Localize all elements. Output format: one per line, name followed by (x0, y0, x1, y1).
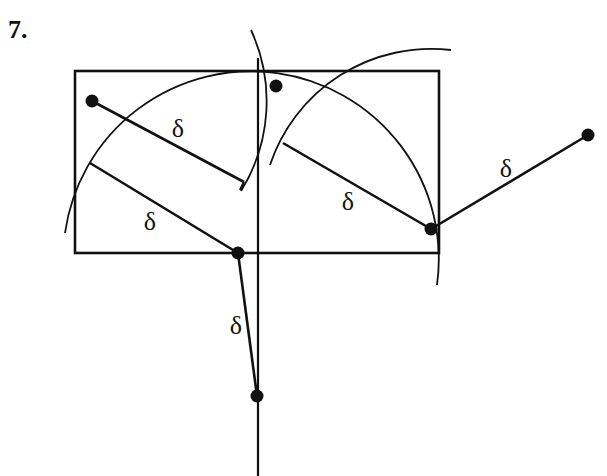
point-p1 (86, 95, 99, 108)
delta-label: δ (342, 187, 354, 216)
point-p6 (251, 390, 264, 403)
point-p4 (425, 223, 438, 236)
point-p5 (582, 129, 595, 142)
delta-label: δ (230, 311, 242, 340)
delta-label: δ (144, 207, 156, 236)
arc-left-point (241, 30, 267, 191)
segment-s1 (92, 101, 244, 182)
geometry-diagram: 7. δδδδδ (0, 0, 607, 476)
point-p3 (232, 247, 245, 260)
delta-label: δ (500, 154, 512, 183)
delta-label: δ (172, 114, 184, 143)
segment-s2 (90, 163, 238, 253)
figure-number: 7. (8, 15, 28, 44)
point-p2 (270, 80, 283, 93)
